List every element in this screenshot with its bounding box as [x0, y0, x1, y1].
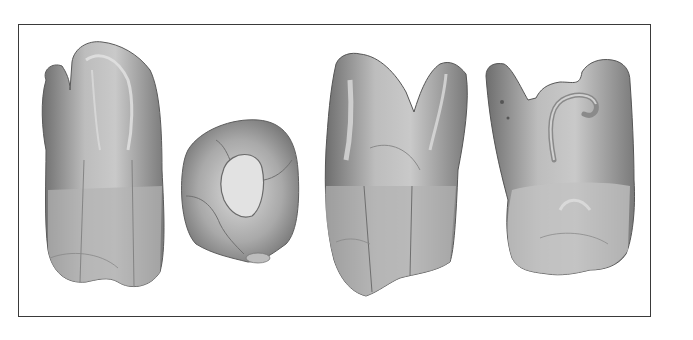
teeth-figure: [0, 0, 693, 340]
tooth-buccal-view: [42, 42, 164, 287]
tooth-mesial-view: [325, 53, 467, 296]
tooth-occlusal-view: [182, 120, 299, 263]
tooth-palatal-view: [486, 60, 635, 275]
